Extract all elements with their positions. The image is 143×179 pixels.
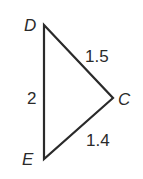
side-label-dc: 1.5 (85, 47, 109, 66)
side-label-ec: 1.4 (86, 131, 110, 150)
vertex-label-e: E (22, 150, 34, 169)
side-label-de: 2 (27, 89, 36, 108)
triangle-diagram: D C E 1.5 2 1.4 (0, 0, 143, 179)
vertex-label-d: D (24, 16, 36, 35)
vertex-label-c: C (118, 90, 131, 109)
